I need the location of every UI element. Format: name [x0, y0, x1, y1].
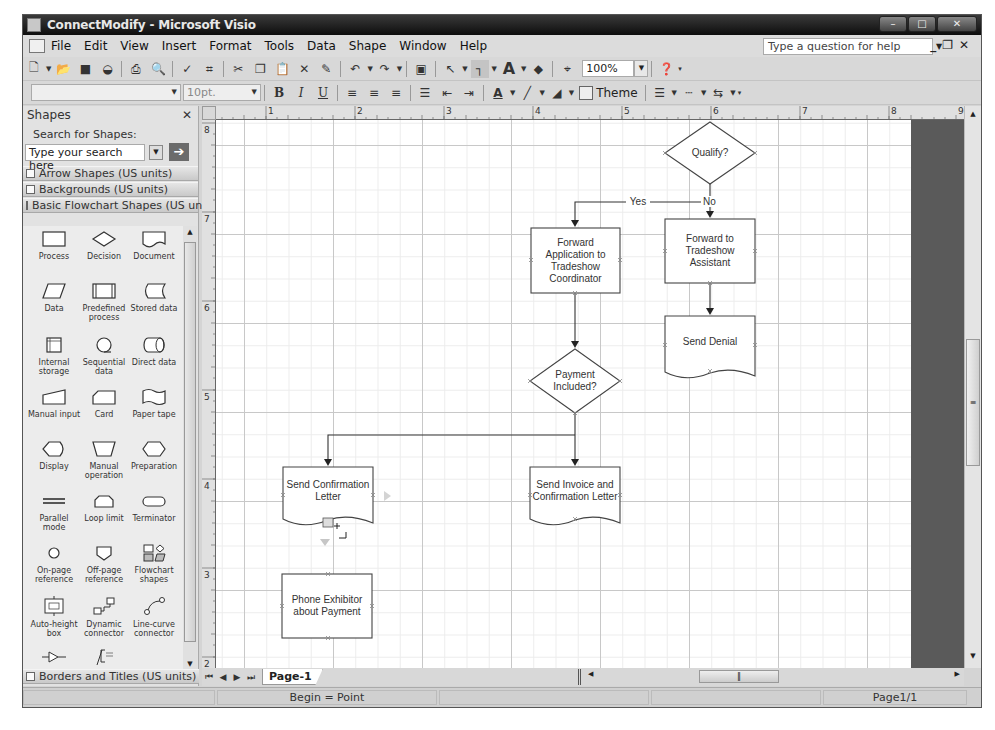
shape-decision[interactable]: Decision — [77, 230, 131, 261]
toolbar-options-icon[interactable]: ▾ — [678, 65, 682, 73]
search-go-button[interactable]: ➔ — [169, 143, 189, 161]
menu-format[interactable]: Format — [209, 39, 251, 53]
vertical-ruler[interactable]: 8 7 6 5 4 3 2 — [202, 120, 216, 668]
line-pattern-icon[interactable]: ┄ — [680, 84, 698, 102]
delete-icon[interactable]: ✕ — [295, 60, 313, 78]
scroll-thumb[interactable]: ≡ — [966, 339, 980, 466]
font-color-dropdown-icon[interactable]: ▼ — [510, 89, 515, 97]
send-confirmation-document[interactable]: Send Confirmation Letter — [283, 467, 373, 515]
shape-paper-tape[interactable]: Paper tape — [127, 388, 181, 419]
shape-terminator[interactable]: Terminator — [127, 492, 181, 523]
redo-dropdown-icon[interactable]: ▼ — [397, 65, 402, 73]
cut-icon[interactable]: ✂ — [229, 60, 247, 78]
help-question-input[interactable]: Type a question for help — [763, 38, 933, 55]
menu-edit[interactable]: Edit — [84, 39, 107, 53]
next-page-icon[interactable]: ▶ — [230, 672, 244, 682]
help-icon[interactable]: ❓ — [657, 60, 675, 78]
shape-card[interactable]: Card — [77, 388, 131, 419]
shape-process[interactable]: Process — [27, 230, 81, 261]
shape-off-page-reference[interactable]: Off-page reference — [77, 544, 131, 584]
menu-data[interactable]: Data — [307, 39, 336, 53]
close-button[interactable]: ✕ — [937, 16, 977, 32]
new-icon[interactable]: 🗋 — [25, 60, 43, 78]
last-page-icon[interactable]: ⏭ — [244, 672, 258, 683]
shape-stored-data[interactable]: Stored data — [127, 282, 181, 313]
ruler-corner[interactable] — [202, 106, 216, 120]
line-color-icon[interactable]: ╱ — [518, 84, 536, 102]
phone-exhibitor-process[interactable]: Phone Exhibitor about Payment — [288, 574, 366, 638]
theme-button[interactable]: Theme — [579, 86, 637, 100]
font-color-icon[interactable]: A — [489, 84, 507, 102]
shape-loop-limit[interactable]: Loop limit — [77, 492, 131, 523]
payment-included-decision[interactable]: Payment Included? — [538, 349, 612, 413]
shape-manual-operation[interactable]: Manual operation — [77, 440, 131, 480]
send-invoice-document[interactable]: Send Invoice and Confirmation Letter — [530, 467, 620, 515]
stamp-tool-icon[interactable]: ◆ — [529, 60, 547, 78]
connection-point-icon[interactable]: ⌖ — [558, 60, 576, 78]
stencil-borders-and-titles[interactable]: Borders and Titles (US units) — [23, 669, 199, 684]
shape-dynamic-connector[interactable]: Dynamic connector — [77, 596, 131, 638]
scroll-thumb[interactable]: ‖ — [699, 670, 779, 683]
align-right-icon[interactable]: ≡ — [387, 84, 405, 102]
shape-annotation[interactable] — [77, 648, 131, 670]
text-dropdown-icon[interactable]: ▼ — [521, 65, 526, 73]
shape-sequential-data[interactable]: Sequential data — [77, 336, 131, 376]
shape-preparation[interactable]: Preparation — [127, 440, 181, 471]
shape-line-curve-connector[interactable]: Line-curve connector — [127, 596, 181, 638]
shapes-scrollbar[interactable]: ▲ ▼ — [183, 226, 197, 674]
menu-help[interactable]: Help — [460, 39, 487, 53]
forward-assistant-process[interactable]: Forward to Tradeshow Assistant — [672, 219, 748, 283]
undo-icon[interactable]: ↶ — [346, 60, 364, 78]
menu-view[interactable]: View — [120, 39, 148, 53]
drawing-canvas[interactable]: Yes No Qualify? Forward Application to T… — [216, 120, 964, 668]
horizontal-ruler[interactable]: 1 2 3 4 5 6 7 8 9 — [216, 106, 964, 120]
canvas-vertical-scrollbar[interactable]: ▲ ≡ ▼ — [964, 106, 981, 668]
shape-document[interactable]: Document — [127, 230, 181, 261]
line-ends-dropdown-icon[interactable]: ▼ — [730, 89, 735, 97]
scroll-up-icon[interactable]: ▲ — [965, 110, 981, 122]
save-icon[interactable]: ■ — [76, 60, 94, 78]
document-window-controls[interactable]: _❐✕ — [930, 38, 975, 52]
shape-display[interactable]: Display — [27, 440, 81, 471]
connector-dropdown-icon[interactable]: ▼ — [492, 65, 497, 73]
shape-on-page-reference[interactable]: On-page reference — [27, 544, 81, 584]
menu-window[interactable]: Window — [399, 39, 446, 53]
pointer-tool-icon[interactable]: ↖ — [441, 60, 459, 78]
menu-insert[interactable]: Insert — [162, 39, 196, 53]
line-ends-icon[interactable]: ⇆ — [709, 84, 727, 102]
redo-icon[interactable]: ↷ — [376, 60, 394, 78]
new-dropdown-icon[interactable]: ▼ — [46, 65, 51, 73]
scroll-thumb[interactable] — [184, 242, 196, 642]
open-icon[interactable]: 📂 — [54, 60, 72, 78]
align-left-icon[interactable]: ≡ — [343, 84, 361, 102]
zoom-dropdown-icon[interactable]: ▼ — [634, 60, 648, 77]
shapes-window-icon[interactable]: ▣ — [412, 60, 430, 78]
bullets-icon[interactable]: ☰ — [416, 84, 434, 102]
shape-collate[interactable] — [27, 648, 81, 670]
maximize-button[interactable]: □ — [908, 16, 936, 32]
fill-color-dropdown-icon[interactable]: ▼ — [569, 89, 574, 97]
stencil-arrow-shapes[interactable]: Arrow Shapes (US units) — [23, 166, 198, 181]
line-color-dropdown-icon[interactable]: ▼ — [539, 89, 544, 97]
search-dropdown-icon[interactable]: ▼ — [149, 145, 163, 160]
scroll-up-icon[interactable]: ▲ — [183, 228, 197, 240]
previous-page-icon[interactable]: ◀ — [216, 672, 230, 682]
search-input[interactable]: Type your search here — [25, 144, 145, 161]
qualify-decision[interactable]: Qualify? — [665, 122, 755, 184]
bold-icon[interactable]: B — [270, 84, 288, 102]
permission-icon[interactable]: ◒ — [98, 60, 116, 78]
shape-manual-input[interactable]: Manual input — [27, 388, 81, 419]
shape-data[interactable]: Data — [27, 282, 81, 313]
page-tab-page-1[interactable]: Page-1 — [262, 669, 323, 685]
line-weight-icon[interactable]: ☰ — [651, 84, 669, 102]
toolbar-options-icon[interactable]: ▾ — [738, 89, 742, 97]
stencil-basic-flowchart[interactable]: Basic Flowchart Shapes (US units) — [23, 198, 198, 213]
paste-icon[interactable]: 📋 — [273, 60, 291, 78]
scroll-left-icon[interactable]: ◀ — [588, 670, 593, 678]
menu-tools[interactable]: Tools — [265, 39, 295, 53]
format-painter-icon[interactable]: ✎ — [317, 60, 335, 78]
shape-internal-storage[interactable]: Internal storage — [27, 336, 81, 376]
print-preview-icon[interactable]: 🔍 — [149, 60, 167, 78]
canvas-horizontal-scrollbar[interactable]: ◀ ‖ ▶ — [586, 670, 962, 684]
pointer-dropdown-icon[interactable]: ▼ — [462, 65, 467, 73]
